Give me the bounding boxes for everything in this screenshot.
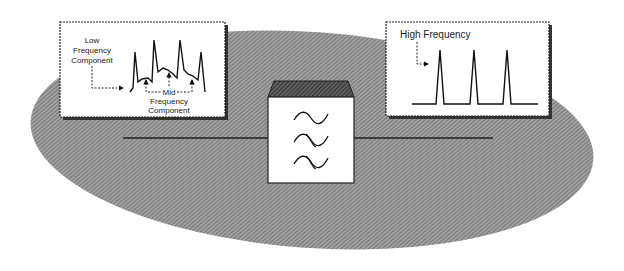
low-frequency-label-2: Frequency <box>73 46 111 55</box>
right-panel-high-frequency: High Frequency <box>386 22 552 119</box>
low-frequency-label-1: Low <box>85 36 100 45</box>
diagram-canvas: Low Frequency Component Mid Frequency Co… <box>0 0 624 271</box>
filter-box <box>268 81 354 183</box>
high-frequency-label: High Frequency <box>400 29 471 40</box>
low-frequency-label-3: Component <box>71 56 113 65</box>
mid-frequency-label-1: Frequency <box>150 97 188 106</box>
left-panel-composite-signal: Low Frequency Component Mid Frequency Co… <box>60 22 228 120</box>
mid-label: Mid <box>163 88 176 97</box>
mid-frequency-label-2: Component <box>148 106 190 115</box>
filter-box-top <box>268 81 354 97</box>
